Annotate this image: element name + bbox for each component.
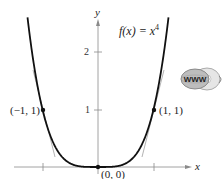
y-axis-arrow-icon	[96, 19, 100, 26]
y-tick-label-2: 2	[84, 47, 89, 57]
function-label: f(x) = x4	[119, 24, 159, 37]
x-axis-arrow-icon	[185, 165, 192, 169]
point-label-neg1-1: (−1, 1)	[10, 105, 40, 116]
y-axis	[94, 19, 102, 174]
function-name: f(x) = x	[119, 24, 155, 38]
y-tick-label-1: 1	[85, 105, 90, 115]
function-exponent: 4	[155, 23, 159, 32]
www-badge-text: WWW	[184, 75, 207, 84]
point-origin	[96, 165, 100, 169]
y-axis-label: y	[95, 7, 100, 18]
www-globe-cd-icon[interactable]: WWW	[178, 64, 222, 94]
point-label-origin: (0, 0)	[101, 169, 125, 179]
point-label-1-1: (1, 1)	[159, 105, 183, 116]
point-1-1	[152, 108, 156, 112]
x-axis-label: x	[195, 161, 200, 172]
point-neg1-1	[41, 108, 45, 112]
